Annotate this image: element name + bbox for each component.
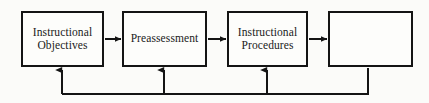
node-instructional-procedures[interactable]: Instructional Procedures: [227, 11, 308, 67]
flowchart-canvas: Instructional Objectives Preassessment I…: [0, 0, 429, 103]
node-evaluation-blank[interactable]: [328, 11, 413, 67]
node-label-preassessment: Preassessment: [129, 32, 201, 46]
node-instructional-objectives[interactable]: Instructional Objectives: [21, 11, 104, 67]
node-label-instructional-procedures: Instructional Procedures: [236, 26, 299, 53]
feedback-loop-bus: [62, 68, 368, 94]
node-preassessment[interactable]: Preassessment: [122, 11, 207, 67]
node-label-instructional-objectives: Instructional Objectives: [31, 26, 94, 53]
